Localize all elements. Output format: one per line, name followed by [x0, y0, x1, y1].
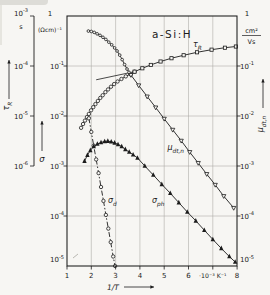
x-tick-label: 6	[186, 272, 191, 280]
tau-unit-label: s	[19, 23, 23, 31]
series-tau-r-linear	[133, 45, 238, 73]
plot-frame	[64, 16, 241, 270]
x-tick-label: 1	[65, 272, 69, 280]
sigma-tick-label: 10-5	[50, 254, 64, 264]
y-axis-sigma: 1(Ωcm)⁻¹10-110-210-310-410-5σ	[38, 10, 64, 265]
x-tick-label: 3	[113, 272, 117, 280]
mu-axis-arrow-head	[261, 79, 264, 83]
mu-tick-label: 10-1	[240, 60, 254, 70]
x-axis: 123456·10⁻³ K⁻¹81/T	[65, 272, 240, 292]
sigma-axis-label: σ	[39, 154, 45, 164]
y-axis-mu: 1cm²Vs10-110-210-310-410-5μdt,n	[240, 10, 267, 265]
sigma-tick-label: 10-4	[50, 210, 64, 220]
x-axis-arrow-head	[150, 285, 154, 288]
x-tick-label: 8	[235, 272, 239, 280]
curve-labels: τRμdt,nσdσph	[108, 40, 202, 208]
mu-unit-denominator: Vs	[248, 38, 256, 46]
tau-tick-label: 10-6	[14, 160, 28, 170]
mu-tick-label: 10-2	[240, 110, 254, 120]
y-axis-tau: 10-310-410-510-6sτR	[2, 7, 34, 170]
mu-unit-numerator: cm²	[245, 27, 258, 35]
sigma-tick-label: 10-3	[50, 160, 64, 170]
x-tick-label: 2	[89, 272, 93, 280]
chart-title: a-Si:H	[152, 28, 192, 40]
series-sigma-d	[87, 117, 117, 268]
mu-tick-label: 10-3	[240, 160, 254, 170]
scan-artifact-mark	[73, 254, 78, 258]
asi-h-chart: 10-310-410-510-6sτR1(Ωcm)⁻¹10-110-210-31…	[0, 0, 270, 295]
series-mu-dtn-lower	[129, 74, 236, 211]
sigma-unit-label: (Ωcm)⁻¹	[38, 26, 63, 33]
scanned-figure-page: 10-310-410-510-6sτR1(Ωcm)⁻¹10-110-210-31…	[0, 0, 270, 295]
series-mu-dtn-upper	[87, 30, 132, 77]
mu-axis-label: μdt,n	[256, 115, 267, 133]
mu-tick-label: 10-5	[240, 254, 254, 264]
series-tau-r-rise	[79, 70, 136, 130]
curve-label-ph: σph	[152, 196, 165, 208]
x-tick-label: 5	[162, 272, 166, 280]
mu-tick-label: 10-4	[240, 210, 254, 220]
curve-label-dt,n: μdt,n	[166, 143, 184, 154]
x-axis-label: 1/T	[107, 283, 120, 292]
tau-axis-arrow-head	[7, 60, 10, 64]
tau-tick-label: 10-5	[14, 110, 28, 120]
mu-tick-label: 1	[245, 10, 249, 18]
sigma-tick-label: 10-1	[50, 60, 64, 70]
sigma-axis-arrow-head	[40, 121, 43, 125]
tau-tick-label: 10-3	[14, 7, 28, 17]
tau-axis-label: τR	[2, 102, 13, 111]
tau-tick-label: 10-4	[14, 60, 28, 70]
x-tick-label: 4	[138, 272, 143, 280]
x-tick-label: ·10⁻³ K⁻¹	[199, 272, 227, 279]
sigma-tick-label: 1	[48, 10, 52, 18]
curve-label-R: τR	[193, 40, 202, 51]
scan-artifact	[73, 254, 78, 258]
chart-title-text: a-Si:H	[152, 28, 192, 40]
sigma-tick-label: 10-2	[50, 110, 64, 120]
